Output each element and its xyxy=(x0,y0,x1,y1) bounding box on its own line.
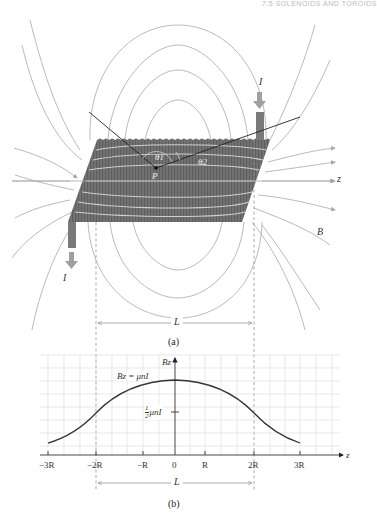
angle-theta1-label: θ1 xyxy=(155,152,164,162)
plot-grid xyxy=(40,355,340,455)
solenoid-coil xyxy=(68,139,270,223)
current-arrow-top-icon xyxy=(253,92,266,109)
point-p-marker xyxy=(154,166,158,170)
tick-label-3r: 3R xyxy=(294,460,305,470)
current-arrow-bottom-icon xyxy=(65,252,78,269)
caption-a: (a) xyxy=(168,336,179,347)
length-label-b: L xyxy=(171,476,183,487)
z-axis-label-a: z xyxy=(337,173,341,184)
half-den: 2 xyxy=(145,413,149,420)
tick-label-negr: −R xyxy=(137,460,148,470)
caption-b: (b) xyxy=(168,498,180,509)
bz-curve xyxy=(48,380,300,443)
current-label-top: I xyxy=(259,76,262,87)
angle-theta2-label: θ2 xyxy=(198,157,207,167)
length-label-a: L xyxy=(171,316,183,327)
tick-label-neg3r: −3R xyxy=(39,460,55,470)
current-label-bottom: I xyxy=(63,272,66,283)
tick-marks xyxy=(48,412,300,455)
half-rest: μnI xyxy=(150,407,162,417)
tick-label-r: R xyxy=(202,460,208,470)
peak-label: Bz = μnI xyxy=(117,371,149,381)
tick-label-2r: 2R xyxy=(248,460,259,470)
tick-label-0: 0 xyxy=(172,460,177,470)
z-axis-label-b: z xyxy=(346,450,350,460)
bz-axis-label: Bz xyxy=(162,357,171,367)
field-label-b: B xyxy=(317,226,323,237)
tick-label-neg2r: −2R xyxy=(87,460,103,470)
half-value-label: 12μnI xyxy=(145,405,162,420)
point-p-label: P xyxy=(152,171,158,181)
